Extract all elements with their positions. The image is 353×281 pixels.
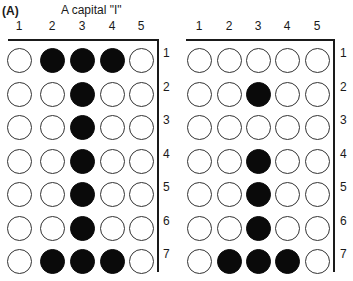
empty-dot [305, 182, 330, 207]
grid-right-border [333, 39, 335, 272]
filled-dot [246, 249, 271, 274]
empty-dot [100, 149, 125, 174]
filled-dot [246, 149, 271, 174]
empty-dot [129, 249, 154, 274]
empty-dot [217, 82, 242, 107]
empty-dot [187, 216, 212, 241]
row-label: 1 [163, 46, 175, 60]
empty-dot [40, 149, 65, 174]
grid-right-border [157, 39, 159, 272]
filled-dot [246, 182, 271, 207]
empty-dot [187, 149, 212, 174]
empty-dot [40, 82, 65, 107]
row-label: 1 [340, 46, 352, 60]
column-label: 4 [102, 19, 122, 33]
filled-dot [70, 115, 95, 140]
column-label: 1 [9, 19, 29, 33]
empty-dot [305, 149, 330, 174]
empty-dot [7, 149, 32, 174]
empty-dot [187, 48, 212, 73]
column-label: 4 [277, 19, 297, 33]
row-label: 7 [340, 247, 352, 261]
empty-dot [7, 115, 32, 140]
empty-dot [246, 115, 271, 140]
filled-dot [275, 249, 300, 274]
empty-dot [129, 115, 154, 140]
filled-dot [40, 249, 65, 274]
column-label: 5 [131, 19, 151, 33]
column-label: 2 [219, 19, 239, 33]
empty-dot [40, 182, 65, 207]
filled-dot [217, 249, 242, 274]
grid-top-border [186, 39, 335, 41]
filled-dot [246, 216, 271, 241]
filled-dot [246, 82, 271, 107]
empty-dot [217, 182, 242, 207]
empty-dot [246, 48, 271, 73]
empty-dot [187, 182, 212, 207]
row-label: 3 [340, 113, 352, 127]
row-label: 7 [163, 247, 175, 261]
column-label: 2 [42, 19, 62, 33]
empty-dot [275, 82, 300, 107]
row-label: 6 [163, 214, 175, 228]
column-label: 5 [307, 19, 327, 33]
row-label: 5 [163, 180, 175, 194]
empty-dot [129, 216, 154, 241]
filled-dot [100, 48, 125, 73]
empty-dot [7, 48, 32, 73]
empty-dot [217, 115, 242, 140]
filled-dot [70, 216, 95, 241]
row-label: 4 [340, 147, 352, 161]
empty-dot [100, 182, 125, 207]
column-label: 3 [248, 19, 268, 33]
filled-dot [40, 48, 65, 73]
filled-dot [70, 249, 95, 274]
empty-dot [275, 48, 300, 73]
empty-dot [40, 115, 65, 140]
empty-dot [187, 115, 212, 140]
empty-dot [129, 149, 154, 174]
empty-dot [129, 82, 154, 107]
empty-dot [100, 115, 125, 140]
filled-dot [70, 48, 95, 73]
filled-dot [70, 82, 95, 107]
empty-dot [217, 48, 242, 73]
empty-dot [275, 182, 300, 207]
filled-dot [100, 249, 125, 274]
empty-dot [40, 216, 65, 241]
empty-dot [187, 82, 212, 107]
row-label: 4 [163, 147, 175, 161]
empty-dot [305, 216, 330, 241]
empty-dot [305, 82, 330, 107]
empty-dot [129, 182, 154, 207]
empty-dot [187, 249, 212, 274]
row-label: 2 [163, 80, 175, 94]
empty-dot [305, 48, 330, 73]
empty-dot [129, 48, 154, 73]
empty-dot [305, 115, 330, 140]
empty-dot [305, 249, 330, 274]
column-label: 3 [72, 19, 92, 33]
row-label: 2 [340, 80, 352, 94]
filled-dot [70, 149, 95, 174]
empty-dot [275, 115, 300, 140]
panel-label: (A) [2, 4, 19, 18]
row-label: 6 [340, 214, 352, 228]
empty-dot [100, 82, 125, 107]
row-label: 5 [340, 180, 352, 194]
empty-dot [275, 149, 300, 174]
caption: A capital "I" [61, 3, 122, 17]
column-label: 1 [189, 19, 209, 33]
empty-dot [275, 216, 300, 241]
empty-dot [217, 216, 242, 241]
row-label: 3 [163, 113, 175, 127]
grid-top-border [8, 39, 159, 41]
empty-dot [7, 82, 32, 107]
empty-dot [7, 216, 32, 241]
empty-dot [7, 249, 32, 274]
empty-dot [100, 216, 125, 241]
filled-dot [70, 182, 95, 207]
empty-dot [7, 182, 32, 207]
empty-dot [217, 149, 242, 174]
